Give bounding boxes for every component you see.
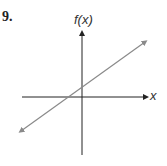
function-line xyxy=(21,42,145,131)
graph xyxy=(0,0,167,166)
